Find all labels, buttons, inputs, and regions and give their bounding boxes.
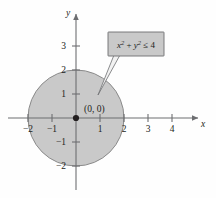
x-tick-label-1: 1 xyxy=(98,124,103,134)
y-axis-label: y xyxy=(65,8,71,18)
origin-dot xyxy=(73,115,79,121)
y-tick-label-1: 1 xyxy=(61,89,66,99)
graph-figure: −2 −1 1 2 3 4 3 2 1 −1 −2 x y x2 + y2 ≤ … xyxy=(0,0,216,198)
x-tick-label-2: 2 xyxy=(122,124,127,134)
x-tick-label-4: 4 xyxy=(170,124,175,134)
x-tick-label-3: 3 xyxy=(146,124,151,134)
callout-constant: 4 xyxy=(151,40,156,50)
y-tick-label-2: 2 xyxy=(61,65,66,75)
x-axis-label: x xyxy=(200,119,206,129)
y-tick-label-neg1: −1 xyxy=(56,137,66,147)
x-tick-label-neg1: −1 xyxy=(47,124,57,134)
y-tick-label-3: 3 xyxy=(61,41,66,51)
y-tick-label-neg2: −2 xyxy=(56,161,66,171)
origin-label: (0, 0) xyxy=(84,104,105,115)
x-tick-label-neg2: −2 xyxy=(23,124,33,134)
